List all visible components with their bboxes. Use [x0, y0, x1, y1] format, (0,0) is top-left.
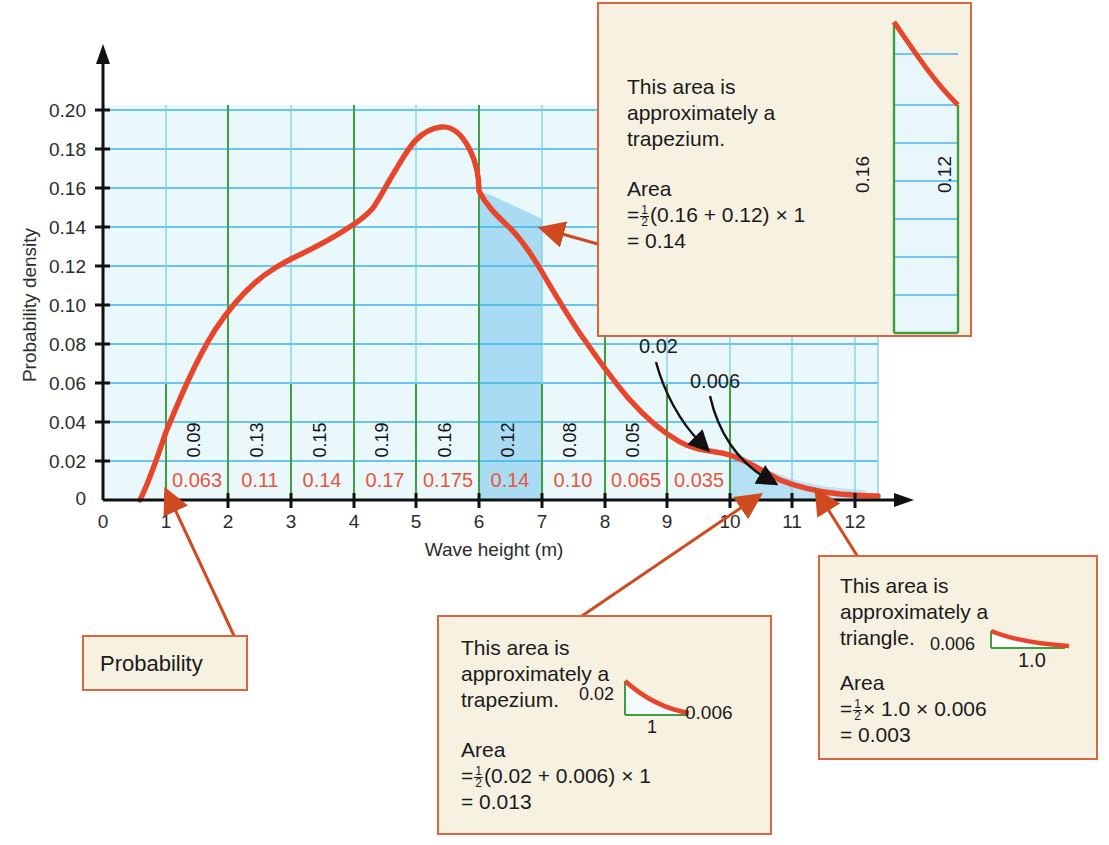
probability-label: 0.17 — [366, 469, 405, 491]
half-fraction: 12 — [853, 699, 862, 722]
formula-equals: = — [627, 203, 639, 226]
mini-left-label-top: 0.16 — [852, 156, 874, 193]
mini-left-label-bottom: 0.02 — [579, 684, 614, 705]
probability-label: 0.14 — [491, 469, 530, 491]
density-label: 0.19 — [372, 422, 392, 457]
callout-line-1: This area is — [461, 635, 651, 661]
x-tick-label: 8 — [600, 511, 611, 532]
mini-base-label-bottom: 1 — [647, 717, 657, 738]
density-label: 0.12 — [498, 422, 518, 457]
y-tick-label-zero: 0 — [75, 488, 86, 509]
probability-callout-text: Probability — [100, 651, 203, 677]
callout-area-label: Area — [461, 737, 761, 763]
trapezium-callout-top: This area is approximately a trapezium. … — [597, 2, 972, 337]
formula-body: × 1.0 × 0.006 — [863, 697, 987, 720]
mini-base-label-triangle: 1.0 — [1018, 649, 1046, 672]
y-tick-label: 0.16 — [49, 178, 86, 199]
x-tick-label: 11 — [782, 511, 802, 532]
density-label: 0.16 — [435, 422, 455, 457]
probability-label: 0.10 — [554, 469, 593, 491]
callout-line-2: approximately a — [840, 599, 1040, 625]
formula-body: (0.16 + 0.12) × 1 — [650, 203, 805, 226]
half-fraction: 12 — [474, 766, 483, 789]
callout-formula: =12(0.02 + 0.006) × 1 — [461, 763, 761, 789]
x-tick-label: 7 — [537, 511, 548, 532]
y-axis-title: Probability density — [19, 227, 40, 382]
probability-label: 0.065 — [611, 469, 661, 491]
y-tick-label: 0.12 — [49, 256, 86, 277]
y-tick-label: 0.14 — [49, 217, 86, 238]
x-axis-title: Wave height (m) — [425, 539, 564, 560]
x-tick-label: 0 — [98, 511, 109, 532]
y-tick-label: 0.02 — [49, 451, 86, 472]
y-tick-label: 0.18 — [49, 139, 86, 160]
y-tick-label: 0.04 — [49, 412, 86, 433]
callout-formula: =12× 1.0 × 0.006 — [840, 696, 1090, 722]
callout-line-1: This area is — [840, 573, 1040, 599]
y-tick-labels: 0.20 0.18 0.16 0.14 0.12 0.10 0.08 0.06 … — [49, 100, 86, 509]
y-axis-arrow — [96, 44, 110, 64]
mini-right-label-bottom: 0.006 — [685, 702, 733, 724]
density-label: 0.09 — [184, 422, 204, 457]
callout-area-label: Area — [840, 670, 1090, 696]
formula-equals: = — [840, 697, 852, 720]
annotation-label-0-02: 0.02 — [639, 335, 678, 357]
density-label: 0.15 — [310, 422, 330, 457]
x-tick-label: 3 — [286, 511, 297, 532]
half-fraction: 12 — [640, 205, 649, 228]
y-tick-label: 0.20 — [49, 100, 86, 121]
triangle-callout: This area is approximately a triangle. A… — [818, 555, 1098, 760]
probability-label: 0.14 — [303, 469, 342, 491]
x-axis-arrow — [894, 493, 914, 507]
mini-left-label-triangle: 0.006 — [930, 634, 975, 655]
x-tick-labels: 0 1 2 3 4 5 6 7 8 9 10 11 12 — [98, 511, 866, 532]
interval-probability-labels: 0.063 0.11 0.14 0.17 0.175 0.14 0.10 0.0… — [172, 469, 724, 491]
figure-root: 0.20 0.18 0.16 0.14 0.12 0.10 0.08 0.06 … — [0, 0, 1109, 845]
formula-body: (0.02 + 0.006) × 1 — [484, 764, 651, 787]
x-tick-label: 9 — [662, 511, 673, 532]
callout-line-3: trapezium. — [627, 126, 827, 152]
y-tick-label: 0.10 — [49, 295, 86, 316]
probability-label: 0.035 — [674, 469, 724, 491]
callout-line-2: approximately a — [627, 100, 827, 126]
x-tick-label: 12 — [844, 511, 865, 532]
x-tick-label: 4 — [349, 511, 360, 532]
formula-equals: = — [461, 764, 473, 787]
callout-result: = 0.003 — [840, 722, 1090, 748]
trapezium-callout-bottom: This area is approximately a trapezium. … — [437, 615, 772, 835]
density-label: 0.08 — [560, 422, 580, 457]
x-tick-label: 1 — [161, 511, 172, 532]
y-tick-label: 0.08 — [49, 334, 86, 355]
density-label: 0.13 — [247, 422, 267, 457]
y-tick-label: 0.06 — [49, 373, 86, 394]
annotation-label-0-006: 0.006 — [690, 370, 740, 392]
probability-label: 0.11 — [241, 469, 278, 491]
x-tick-label: 2 — [223, 511, 234, 532]
callout-result: = 0.013 — [461, 789, 761, 815]
probability-callout: Probability — [82, 635, 248, 691]
x-tick-label: 6 — [474, 511, 485, 532]
x-tick-label: 5 — [411, 511, 422, 532]
probability-label: 0.175 — [423, 469, 473, 491]
callout-line-1: This area is — [627, 74, 827, 100]
mini-right-label-top: 0.12 — [934, 156, 956, 193]
density-label: 0.05 — [623, 422, 643, 457]
probability-label: 0.063 — [172, 469, 222, 491]
